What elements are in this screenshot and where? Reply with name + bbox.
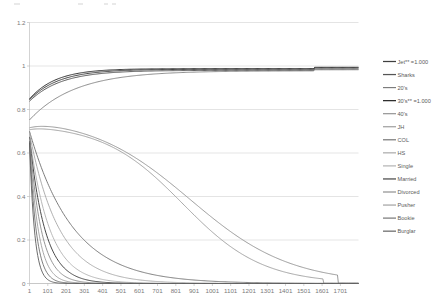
series-line-hs — [30, 133, 359, 283]
artifact-mark — [14, 3, 20, 5]
x-tick-label: 1201 — [242, 287, 256, 294]
series-curves — [30, 67, 359, 283]
y-tick-label: 0.4 — [17, 193, 26, 200]
gridlines — [30, 23, 359, 284]
line-chart: 00.20.40.60.811.2 1101201301401501601701… — [0, 0, 443, 304]
chart-legend: Jet** =1.000Sharks20's30's** =1.00040'sJ… — [383, 59, 431, 235]
x-tick-label: 1601 — [315, 287, 329, 294]
x-tick-label: 701 — [152, 287, 163, 294]
y-axis-tick-labels: 00.20.40.60.811.2 — [17, 19, 26, 287]
series-line-married — [30, 137, 359, 283]
artifact-mark — [112, 3, 116, 5]
legend-item-divorced[interactable]: Divorced — [383, 189, 420, 195]
artifact-mark — [104, 3, 108, 5]
x-tick-label: 1701 — [334, 287, 348, 294]
series-line-pusher — [30, 140, 359, 284]
legend-item-married[interactable]: Married — [383, 176, 416, 182]
y-tick-label: 0.6 — [17, 149, 26, 156]
x-tick-label: 1 — [28, 287, 32, 294]
x-tick-label: 1401 — [279, 287, 293, 294]
legend-item-hs[interactable]: HS — [383, 150, 406, 156]
legend-label: Pusher — [398, 202, 416, 208]
legend-item-jet-1-000[interactable]: Jet** =1.000 — [383, 59, 428, 65]
y-tick-label: 0 — [22, 280, 26, 287]
x-tick-label: 601 — [134, 287, 145, 294]
series-line-divorced — [30, 138, 359, 283]
series-line-jh — [30, 129, 359, 283]
legend-item-pusher[interactable]: Pusher — [383, 202, 415, 208]
x-tick-label: 1101 — [224, 287, 238, 294]
x-tick-label: 1301 — [260, 287, 274, 294]
legend-item-jh[interactable]: JH — [383, 124, 404, 130]
legend-label: Bookie — [398, 215, 415, 221]
x-tick-label: 401 — [97, 287, 108, 294]
legend-item-sharks[interactable]: Sharks — [383, 72, 415, 78]
series-line-burglar — [30, 143, 359, 284]
chart-container: 00.20.40.60.811.2 1101201301401501601701… — [0, 0, 443, 304]
legend-label: 40's — [398, 111, 408, 117]
x-tick-label: 501 — [116, 287, 127, 294]
legend-item-20-s[interactable]: 20's — [383, 85, 408, 91]
legend-label: COL — [398, 137, 410, 143]
legend-label: Married — [398, 176, 417, 182]
series-line-bookie — [30, 141, 359, 283]
legend-label: 20's — [398, 85, 408, 91]
series-line-sharks — [30, 69, 359, 101]
legend-item-bookie[interactable]: Bookie — [383, 215, 415, 221]
y-tick-label: 1.2 — [17, 19, 26, 26]
legend-label: Divorced — [398, 189, 420, 195]
legend-label: HS — [398, 150, 406, 156]
x-tick-label: 101 — [43, 287, 54, 294]
series-line-single — [30, 136, 359, 283]
x-tick-label: 1501 — [297, 287, 311, 294]
series-line-40-s — [30, 126, 359, 283]
legend-item-col[interactable]: COL — [383, 137, 409, 143]
y-tick-label: 1 — [22, 62, 26, 69]
series-line-col — [30, 131, 359, 283]
legend-label: Sharks — [398, 72, 416, 78]
legend-label: Jet** =1.000 — [398, 59, 429, 65]
x-tick-label: 1001 — [205, 287, 219, 294]
legend-item-40-s[interactable]: 40's — [383, 111, 408, 117]
x-tick-label: 801 — [171, 287, 182, 294]
x-tick-label: 901 — [189, 287, 200, 294]
legend-label: JH — [398, 124, 405, 130]
legend-item-burglar[interactable]: Burglar — [383, 228, 416, 234]
artifact-mark — [78, 3, 83, 5]
x-tick-label: 201 — [61, 287, 72, 294]
x-axis-tick-labels: 1101201301401501601701801901100111011201… — [28, 287, 348, 294]
legend-item-30-s-1-000[interactable]: 30's** =1.000 — [383, 98, 431, 104]
axes — [27, 23, 359, 287]
legend-label: 30's** =1.000 — [398, 98, 431, 104]
top-artifact-strip — [0, 0, 443, 10]
y-tick-label: 0.8 — [17, 106, 26, 113]
legend-label: Single — [398, 163, 414, 169]
x-tick-label: 301 — [79, 287, 90, 294]
y-tick-label: 0.2 — [17, 236, 26, 243]
legend-label: Burglar — [398, 228, 416, 234]
legend-item-single[interactable]: Single — [383, 163, 413, 169]
